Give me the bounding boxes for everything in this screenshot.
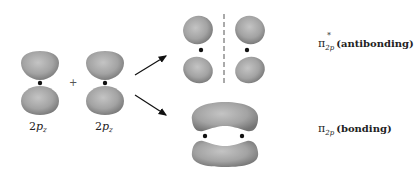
nucleus-dot bbox=[199, 48, 203, 52]
lobe-upper-right bbox=[231, 12, 269, 49]
nucleus-dot bbox=[38, 81, 42, 85]
bonding-pi-orbital bbox=[192, 102, 258, 167]
nucleus-dot bbox=[103, 81, 107, 85]
label-subscript: z bbox=[43, 126, 47, 134]
plus-sign: + bbox=[69, 77, 77, 88]
nucleus-dot bbox=[203, 134, 207, 138]
subscript: 2p bbox=[325, 129, 334, 137]
atomic-orbital-2pz-1 bbox=[21, 51, 59, 115]
atomic-orbital-label-1: 2pz bbox=[29, 120, 47, 134]
nucleus-dot bbox=[240, 134, 244, 138]
lower-banana-lobe bbox=[192, 141, 258, 167]
antibonding-pi-star-orbital bbox=[179, 12, 269, 88]
label-p: p bbox=[36, 120, 43, 133]
upper-banana-lobe bbox=[192, 102, 258, 131]
lower-lobe bbox=[21, 86, 59, 115]
upper-lobe bbox=[21, 51, 59, 80]
atomic-orbital-2pz-2 bbox=[86, 51, 124, 115]
label-number: 2 bbox=[29, 120, 36, 133]
description: (bonding) bbox=[336, 123, 391, 134]
atomic-orbital-label-2: 2pz bbox=[95, 120, 113, 134]
orbital-diagram bbox=[0, 0, 420, 169]
lobe-upper-left bbox=[179, 12, 217, 49]
lobe-lower-right bbox=[231, 53, 268, 88]
label-p: p bbox=[102, 120, 109, 133]
bonding-label: π2p(bonding) bbox=[318, 122, 392, 137]
antibonding-label: π*2p(antibonding) bbox=[318, 37, 414, 52]
arrow-to-bonding-icon bbox=[135, 95, 166, 115]
lobe-lower-left bbox=[179, 53, 216, 88]
label-number: 2 bbox=[95, 120, 102, 133]
description: (antibonding) bbox=[336, 38, 414, 49]
lower-lobe bbox=[86, 86, 124, 115]
arrow-to-antibonding-icon bbox=[135, 56, 166, 75]
upper-lobe bbox=[86, 51, 124, 80]
star-superscript: * bbox=[327, 31, 331, 40]
nucleus-dot bbox=[245, 48, 249, 52]
subscript: 2p bbox=[325, 44, 334, 52]
label-subscript: z bbox=[109, 126, 113, 134]
